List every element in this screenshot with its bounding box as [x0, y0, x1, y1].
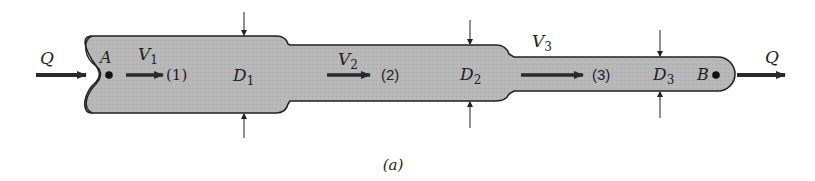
point-a-label: A	[98, 48, 112, 67]
section-1-label: (1)	[166, 66, 187, 84]
inflow-label: Q	[40, 48, 54, 68]
pipe-series-diagram: Q A V1 (1) D1 V2 (2) D2 V3 (3) D3 B Q (a…	[0, 0, 815, 181]
figure-caption: (a)	[383, 156, 404, 174]
section-3-label: (3)	[592, 66, 610, 83]
point-b-label: B	[696, 65, 709, 84]
velocity-3-label: V3	[532, 31, 552, 54]
point-b-dot	[712, 71, 720, 79]
point-a-dot	[105, 71, 113, 79]
outflow-label: Q	[765, 47, 779, 67]
section-2-label: (2)	[381, 66, 399, 83]
